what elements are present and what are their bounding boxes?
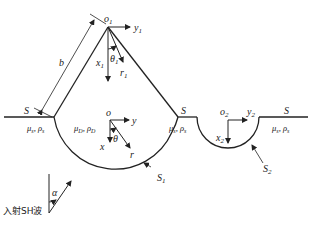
- label-y: y: [131, 115, 137, 126]
- dimension-line-b: [42, 20, 94, 110]
- angle-theta-arc: [110, 128, 116, 130]
- hill-left-edge: [54, 27, 108, 117]
- label-medium-left: μs, ρs: [26, 123, 45, 134]
- label-y1: y1: [133, 22, 142, 35]
- leader-s2: [252, 145, 263, 163]
- label-surface-left: S: [24, 105, 29, 116]
- label-x: x: [99, 141, 105, 152]
- label-medium-middle: μs, ρs: [168, 123, 187, 134]
- angle-alpha-arc: [49, 200, 56, 202]
- label-surface-middle: S: [181, 105, 186, 116]
- hill-right-edge: [108, 27, 178, 117]
- label-s2: S2: [263, 163, 272, 176]
- label-medium-inclusion: μD, ρD: [73, 123, 96, 134]
- label-theta: θ: [113, 133, 118, 144]
- label-o: o: [106, 107, 111, 118]
- label-surface-right: S: [284, 105, 289, 116]
- label-medium-right: μs, ρs: [271, 123, 290, 134]
- label-y2: y2: [246, 106, 255, 119]
- dimension-tick-bottom: [34, 108, 52, 117]
- leader-s1: [144, 163, 151, 167]
- label-r: r: [130, 149, 134, 160]
- label-alpha: α: [52, 187, 58, 198]
- label-incident-sh-wave: 入射SH波: [3, 205, 42, 216]
- label-x2: x2: [215, 132, 224, 145]
- label-s1: S1: [157, 172, 166, 185]
- label-o2: o2: [220, 106, 229, 119]
- label-b: b: [59, 57, 64, 68]
- angle-theta1-arc: [108, 46, 116, 49]
- label-x1: x1: [95, 57, 104, 70]
- label-o1: o1: [104, 13, 113, 26]
- label-theta1: θ1: [110, 53, 118, 66]
- label-r1: r1: [120, 67, 127, 80]
- diagram-canvas: b o1 y1 x1 θ1 r1 S S S μs, ρs μD, ρD μs,…: [0, 0, 312, 230]
